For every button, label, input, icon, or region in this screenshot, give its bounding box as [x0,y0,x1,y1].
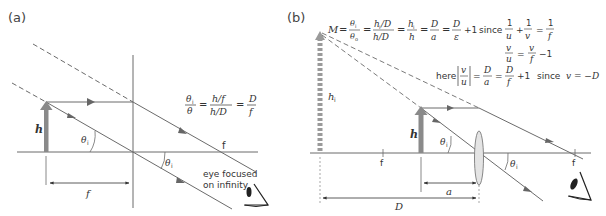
focal-point-label: f [222,140,226,151]
ray-arrowhead [447,105,454,111]
eq-term: /D [380,19,391,29]
object-arrowhead [415,106,428,115]
panel-a-label: (a) [8,10,26,25]
eq-term: +1 [517,71,530,81]
angle-sub: i [87,139,89,146]
svg-text:=: = [495,71,503,81]
ray-arrowhead [67,113,76,118]
virtual-image-arrowhead [315,31,325,40]
distance-a-label: a [446,186,452,197]
focal-distance-label: f [85,188,92,199]
image-height-sub: i [334,96,336,103]
magnification-equation-a: θ i θ = h/f h/D = D f [185,93,257,117]
eye-caption-line1: eye focused [203,169,258,179]
eq-term: 1 [507,18,512,28]
eq-term: 1 [526,18,531,28]
panel-b: (b) h i h θ i θ i [287,10,599,212]
eq-term: +1 [464,25,477,35]
eq-term: u [506,31,512,41]
svg-text:=: = [473,71,481,81]
eq-term: −1 [539,49,552,59]
eq-term: D [248,93,257,104]
ray-arrowhead [432,118,441,123]
object-height-label: h [35,123,43,136]
refracted-ray [479,108,583,159]
panel-a: (a) h θ i θ i f f [8,10,268,209]
eq-term: here [436,71,457,81]
eq-term: f [248,106,254,117]
svg-text:=: = [236,99,244,110]
eq-term: i [355,23,356,29]
magnification-equation-b: M = θ i θ o = h i /D h/D = h i h = D a [327,19,503,42]
eq-term: h/D [210,106,227,117]
eq-term: D [505,65,513,75]
dashed-ray-upper [33,44,133,102]
eq-term: a [431,32,436,42]
eq-term: D [452,19,460,29]
eq-term: h [409,32,415,42]
eq-term: i [413,24,414,30]
eq-term: 1 [548,18,553,28]
svg-text:=: = [397,24,405,35]
eq-term: i [192,99,194,105]
dashed-ray-lower [12,83,46,102]
chief-ray [46,102,232,209]
convex-lens [475,131,484,185]
here-equation: here v u = D a = D f +1 since v = −D [436,65,599,87]
object-arrow [44,108,49,152]
svg-text:=: = [442,24,450,35]
eq-term: f [529,54,535,64]
eye-caption-line2: on infinity [203,180,249,190]
eq-term: since [537,71,561,81]
ray-arrowhead [87,98,95,106]
eq-term: h/D [373,32,389,42]
eq-term: = [536,25,544,35]
refracted-ray [133,102,256,172]
angle-arc [90,131,95,152]
eq-term: v [461,65,466,75]
object-height-label: h [410,128,418,141]
eq-term: M [327,24,339,35]
eq-term: ε [454,32,459,42]
angle-arc [448,136,451,153]
svg-text:=: = [420,24,428,35]
eq-term: v = −D [566,71,599,81]
eq-term: v [506,43,511,53]
ray-arrowhead [545,138,554,143]
thin-lens-equation: 1 u + 1 v = 1 f [505,18,554,41]
panel-b-label: (b) [287,10,305,25]
eq-term: D [430,19,438,29]
eq-term: u [506,54,512,64]
eq-term: θ [187,106,193,116]
eye-icon [568,172,591,200]
eq-term: v [525,31,530,41]
angle-sub: i [171,162,173,169]
dashed-ray-lower [322,35,421,108]
object-arrow [419,113,424,153]
eq-term: h/f [212,93,226,104]
eq-term: = [517,49,525,59]
eq-term: f [506,77,512,87]
eq-term: u [461,77,467,87]
distance-D-label: D [394,201,403,212]
eq-term: D [483,65,491,75]
focal-right-label: f [572,158,576,168]
eq-term: a [484,77,489,87]
eq-term: v [529,43,534,53]
eq-term: f [547,31,553,41]
focal-left-label: f [380,158,384,168]
eq-term: + [516,25,524,35]
ratio-equation: v u = v f −1 [505,43,552,64]
angle-sub: i [516,163,518,170]
angle-arc [505,153,508,170]
eq-term: o [355,36,358,42]
svg-text:=: = [199,99,207,110]
eq-term: since [479,25,503,35]
eq-term: = [339,24,347,35]
optics-diagram: (a) h θ i θ i f f [0,0,606,216]
ray-arrowhead [176,177,185,183]
angle-sub: i [446,141,448,148]
svg-text:=: = [363,24,371,35]
